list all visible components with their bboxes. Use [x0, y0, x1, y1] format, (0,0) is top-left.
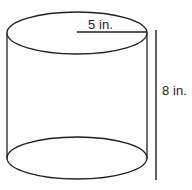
height-label: 8 in.: [162, 84, 187, 97]
radius-label: 5 in.: [88, 18, 113, 31]
cylinder-top-ellipse: [7, 12, 147, 54]
cylinder-bottom-ellipse: [7, 137, 147, 179]
cylinder-diagram: 5 in. 8 in.: [0, 0, 192, 190]
